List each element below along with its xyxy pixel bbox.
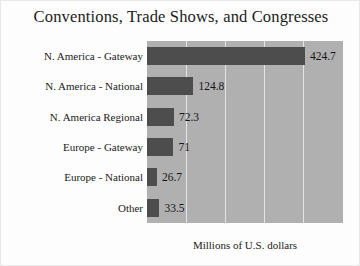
category-label: N. America - National: [45, 80, 143, 92]
bar-value-label: 26.7: [162, 171, 182, 183]
category-label: Europe - Gateway: [63, 141, 143, 153]
bar-value-label: 424.7: [310, 50, 336, 62]
bar: [147, 168, 157, 186]
bar-value-label: 124.8: [198, 80, 224, 92]
category-label: Other: [118, 202, 143, 214]
bar-row: N. America - National124.8: [1, 71, 360, 101]
bar: [147, 138, 173, 156]
x-axis-label: Millions of U.S. dollars: [147, 239, 343, 251]
bar-row: N. America - Gateway424.7: [1, 41, 360, 71]
bar-value-label: 72.3: [179, 111, 199, 123]
category-label: N. America Regional: [50, 111, 143, 123]
category-label: Europe - National: [64, 171, 143, 183]
bar-row: N. America Regional72.3: [1, 102, 360, 132]
bar-row: Other33.5: [1, 193, 360, 223]
bar: [147, 199, 159, 217]
bar-value-label: 71: [178, 141, 190, 153]
category-label: N. America - Gateway: [44, 50, 143, 62]
bar-row: Europe - Gateway71: [1, 132, 360, 162]
chart-figure: Conventions, Trade Shows, and Congresses…: [0, 0, 360, 266]
bar-row: Europe - National26.7: [1, 162, 360, 192]
chart-title: Conventions, Trade Shows, and Congresses: [1, 7, 360, 27]
bar: [147, 108, 174, 126]
bar: [147, 47, 305, 65]
bar: [147, 77, 193, 95]
bar-rows: N. America - Gateway424.7N. America - Na…: [1, 41, 360, 223]
bar-value-label: 33.5: [164, 202, 184, 214]
